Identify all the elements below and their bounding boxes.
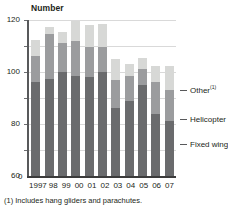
bar-segment-helicopter-06 <box>151 82 160 113</box>
stacked-bar-03 <box>111 59 120 176</box>
x-axis-label-1997: 1997 <box>29 181 47 190</box>
y-tick-label-100: 100 <box>7 68 20 76</box>
bar-segment-helicopter-07 <box>165 90 174 121</box>
y-tick-label-80: 80 <box>11 120 20 128</box>
bar-segment-fixed-wing-00 <box>71 76 80 176</box>
bar-column-1997 <box>29 20 42 176</box>
bar-column-06 <box>149 20 162 176</box>
legend-label-helicopter: Helicopter <box>190 115 226 124</box>
bar-segment-helicopter-02 <box>98 47 107 72</box>
legend-item-other: Other(1) <box>180 85 216 95</box>
bar-segment-other-07 <box>165 66 174 91</box>
x-axis-label-02: 02 <box>98 181 111 190</box>
bar-segment-other-02 <box>98 24 107 47</box>
bar-column-99 <box>56 20 69 176</box>
bar-segment-fixed-wing-99 <box>58 72 67 176</box>
stacked-bar-05 <box>138 58 147 176</box>
bar-column-04 <box>123 20 136 176</box>
x-axis-label-01: 01 <box>86 181 99 190</box>
bar-segment-helicopter-05 <box>138 69 147 85</box>
bar-segment-other-00 <box>71 21 80 41</box>
y-tick-60: 60 <box>24 98 27 99</box>
legend-item-fixed-wing: Fixed wing <box>180 140 228 149</box>
bars-layer <box>29 20 176 176</box>
bar-segment-other-1997 <box>31 40 40 57</box>
legend-leader-line-helicopter <box>180 119 187 120</box>
stacked-bar-98 <box>45 27 54 176</box>
bar-segment-fixed-wing-04 <box>125 101 134 176</box>
bar-column-05 <box>136 20 149 176</box>
y-tick-20: 20 <box>24 150 27 151</box>
y-tick-100: 100 <box>24 46 27 47</box>
bar-column-03 <box>109 20 122 176</box>
x-axis-labels: 199798990001020304050607 <box>29 181 176 190</box>
x-axis-label-00: 00 <box>73 181 86 190</box>
legend-leader-line-other <box>180 90 187 91</box>
bar-segment-fixed-wing-02 <box>98 72 107 176</box>
stacked-bar-chart-figure: Number 20406080100120 0 1997989900010203… <box>0 0 228 211</box>
bar-column-02 <box>96 20 109 176</box>
bar-segment-other-99 <box>58 32 67 44</box>
x-axis-line <box>27 176 176 178</box>
bar-segment-other-98 <box>45 27 54 35</box>
x-axis-label-05: 05 <box>137 181 150 190</box>
bar-column-98 <box>42 20 55 176</box>
bar-segment-fixed-wing-05 <box>138 85 147 176</box>
x-axis-label-04: 04 <box>124 181 137 190</box>
chart-footnote: (1) Includes hang gliders and parachutes… <box>4 196 142 205</box>
bar-segment-helicopter-1997 <box>31 56 40 82</box>
bar-segment-fixed-wing-03 <box>111 108 120 176</box>
y-tick-label-120: 120 <box>7 16 20 24</box>
stacked-bar-99 <box>58 32 67 176</box>
stacked-bar-1997 <box>31 40 40 176</box>
bar-segment-other-06 <box>151 66 160 83</box>
bar-segment-other-03 <box>111 59 120 80</box>
bar-column-07 <box>163 20 176 176</box>
x-axis-label-07: 07 <box>163 181 176 190</box>
stacked-bar-07 <box>165 66 174 176</box>
bar-segment-other-01 <box>85 25 94 47</box>
legend-footnote-marker: (1) <box>210 84 216 90</box>
bar-segment-helicopter-00 <box>71 41 80 76</box>
bar-segment-other-05 <box>138 58 147 70</box>
legend-item-helicopter: Helicopter <box>180 115 226 124</box>
legend-label-other: Other <box>190 86 210 95</box>
bar-segment-fixed-wing-1997 <box>31 82 40 176</box>
y-axis-zero-label: 0 <box>18 173 22 181</box>
bar-segment-helicopter-98 <box>45 34 54 78</box>
x-axis-label-98: 98 <box>47 181 60 190</box>
bar-column-00 <box>69 20 82 176</box>
stacked-bar-06 <box>151 66 160 176</box>
bar-segment-fixed-wing-98 <box>45 79 54 177</box>
bar-segment-fixed-wing-06 <box>151 114 160 176</box>
legend-leader-line-fixed-wing <box>180 144 187 145</box>
y-axis-title: Number <box>31 3 64 13</box>
x-axis-label-99: 99 <box>60 181 73 190</box>
x-axis-label-03: 03 <box>111 181 124 190</box>
bar-segment-helicopter-04 <box>125 76 134 101</box>
bar-segment-fixed-wing-07 <box>165 121 174 176</box>
bar-segment-other-04 <box>125 64 134 76</box>
y-tick-120: 120 <box>24 20 27 21</box>
bar-segment-helicopter-03 <box>111 80 120 109</box>
bar-segment-helicopter-01 <box>85 47 94 77</box>
stacked-bar-01 <box>85 25 94 176</box>
stacked-bar-02 <box>98 24 107 176</box>
bar-segment-helicopter-99 <box>58 43 67 72</box>
bar-segment-fixed-wing-01 <box>85 77 94 176</box>
legend-label-fixed-wing: Fixed wing <box>190 140 228 149</box>
y-tick-80: 80 <box>24 72 27 73</box>
x-axis-label-06: 06 <box>150 181 163 190</box>
plot-area: 20406080100120 <box>27 20 176 178</box>
stacked-bar-04 <box>125 64 134 176</box>
stacked-bar-00 <box>71 21 80 176</box>
y-tick-40: 40 <box>24 124 27 125</box>
bar-column-01 <box>82 20 95 176</box>
